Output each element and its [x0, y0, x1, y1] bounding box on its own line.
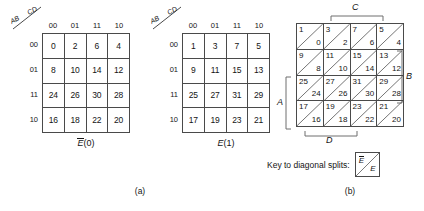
diagonal-cell: 31 30	[351, 76, 378, 102]
col-header-1-a: 01	[64, 22, 86, 30]
kmap-cell: 7	[227, 34, 249, 59]
kmap-e1: AB CD 00 01 11 10 00 01 11 10 1 3 7 5 9 …	[140, 0, 280, 150]
diagonal-cell-odd: 29	[379, 78, 388, 86]
kmap-grid-a: 0 2 6 4 8 10 14 12 24 26 30 28 16 18 22 …	[42, 33, 130, 133]
key-swatch: E E	[355, 152, 380, 177]
bracket-a-shape	[285, 76, 292, 130]
kmap-caption-value-b: (1)	[224, 138, 235, 148]
key-label: Key to diagonal splits:	[267, 160, 350, 170]
row-header-3-a: 10	[14, 116, 38, 124]
diagonal-cell-even: 14	[365, 65, 374, 73]
diagonal-cell: 9 8	[297, 50, 324, 76]
bracket-c	[330, 15, 384, 22]
key-to-diagonal-splits: Key to diagonal splits: E E	[267, 152, 380, 177]
diagonal-cell-odd: 3	[326, 26, 330, 34]
kmap-cell: 8	[43, 59, 65, 84]
kmap-grid-b: 1 3 7 5 9 11 15 13 25 27 31 29 17 19 23 …	[182, 33, 270, 133]
bracket-label-d: D	[326, 136, 333, 145]
key-top-var: E	[359, 156, 364, 165]
row-header-2-b: 11	[154, 91, 178, 99]
diagonal-cell: 13 12	[377, 50, 404, 76]
kmap-cell: 13	[248, 59, 270, 84]
diagonal-cell-odd: 13	[379, 52, 388, 60]
diagonal-cell-even: 18	[339, 116, 348, 124]
axis-corner-ab-cd-a: AB CD	[12, 6, 38, 28]
diagonal-cell-even: 8	[316, 65, 320, 73]
key-top-var-text: E	[359, 156, 364, 165]
kmap-cell: 23	[227, 108, 249, 133]
diagonal-cell-odd: 21	[379, 103, 388, 111]
kmap-cell: 19	[205, 108, 227, 133]
axis-corner-ab-cd-b: AB CD	[152, 6, 178, 28]
col-header-0-a: 00	[42, 22, 64, 30]
row-header-1-b: 01	[154, 66, 178, 74]
bracket-label-b: B	[406, 72, 412, 81]
kmap-cell: 24	[43, 84, 65, 109]
kmap-cell: 4	[108, 34, 130, 59]
kmap-cell: 29	[248, 84, 270, 109]
kmap-cell: 20	[108, 108, 130, 133]
col-header-3-b: 10	[248, 22, 270, 30]
diagonal-cell-odd: 7	[353, 26, 357, 34]
diagonal-cell-even: 22	[365, 116, 374, 124]
row-header-2-a: 11	[14, 91, 38, 99]
kmap-cell: 12	[108, 59, 130, 84]
kmap-cell: 9	[183, 59, 205, 84]
col-header-2-a: 11	[86, 22, 108, 30]
diagonal-cell-even: 20	[392, 116, 401, 124]
diagonal-cell-odd: 5	[379, 26, 383, 34]
kmap-cell: 11	[205, 59, 227, 84]
diagonal-cell-odd: 27	[326, 78, 335, 86]
kmap-cell: 21	[248, 108, 270, 133]
kmap-e0: AB CD 00 01 11 10 00 01 11 10 0 2 6 4 8 …	[0, 0, 140, 150]
diagonal-cell: 15 14	[351, 50, 378, 76]
diagonal-cell: 19 18	[324, 101, 351, 127]
diagonal-cell-odd: 23	[353, 103, 362, 111]
kmap-cell: 25	[183, 84, 205, 109]
diagonal-cell: 25 24	[297, 76, 324, 102]
kmap-cell: 2	[65, 34, 87, 59]
kmap-cell: 17	[183, 108, 205, 133]
kmap-caption-b: E(1)	[182, 138, 270, 148]
kmap-caption-a: E(0)	[42, 138, 130, 148]
diagonal-cell: 7 6	[351, 24, 378, 50]
row-header-1-a: 01	[14, 66, 38, 74]
row-header-0-a: 00	[14, 41, 38, 49]
kmap-cell: 15	[227, 59, 249, 84]
diagonal-cell-even: 2	[343, 39, 347, 47]
col-header-3-a: 10	[108, 22, 130, 30]
col-header-1-b: 01	[204, 22, 226, 30]
kmap-cell: 16	[43, 108, 65, 133]
kmap-caption-value-a: (0)	[84, 138, 95, 148]
row-header-3-b: 10	[154, 116, 178, 124]
col-header-2-b: 11	[226, 22, 248, 30]
diagonal-cell: 21 20	[377, 101, 404, 127]
diagonal-cell-odd: 9	[299, 52, 303, 60]
diagonal-cell-even: 24	[312, 90, 321, 98]
key-bottom-var: E	[370, 165, 375, 173]
kmap-cell: 28	[108, 84, 130, 109]
diagonal-split-map: C B A D 1 0 3 2 7 6	[284, 0, 424, 150]
diagonal-cell: 27 26	[324, 76, 351, 102]
diagonal-cell-odd: 11	[326, 52, 334, 60]
bracket-label-c: C	[352, 3, 359, 12]
diagonal-cell-even: 6	[370, 39, 374, 47]
diagonal-cell: 17 16	[297, 101, 324, 127]
diagonal-cell-odd: 31	[353, 78, 362, 86]
diagonal-cell-odd: 19	[326, 103, 335, 111]
kmap-cell: 26	[65, 84, 87, 109]
diagonal-cell-even: 4	[397, 39, 401, 47]
kmap-cell: 6	[87, 34, 109, 59]
kmap-cell: 5	[248, 34, 270, 59]
col-header-0-b: 00	[182, 22, 204, 30]
kmap-cell: 31	[227, 84, 249, 109]
diagonal-cell-odd: 1	[299, 26, 303, 34]
diagonal-cell-even: 10	[339, 65, 348, 73]
diagonal-cell-even: 26	[339, 90, 348, 98]
bracket-label-a: A	[277, 98, 283, 107]
kmap-cell: 30	[87, 84, 109, 109]
kmap-cell: 1	[183, 34, 205, 59]
diagonal-cell: 1 0	[297, 24, 324, 50]
diagonal-grid: 1 0 3 2 7 6 5 4 9 8 11 10	[296, 23, 404, 127]
diagonal-cell-even: 0	[316, 39, 320, 47]
